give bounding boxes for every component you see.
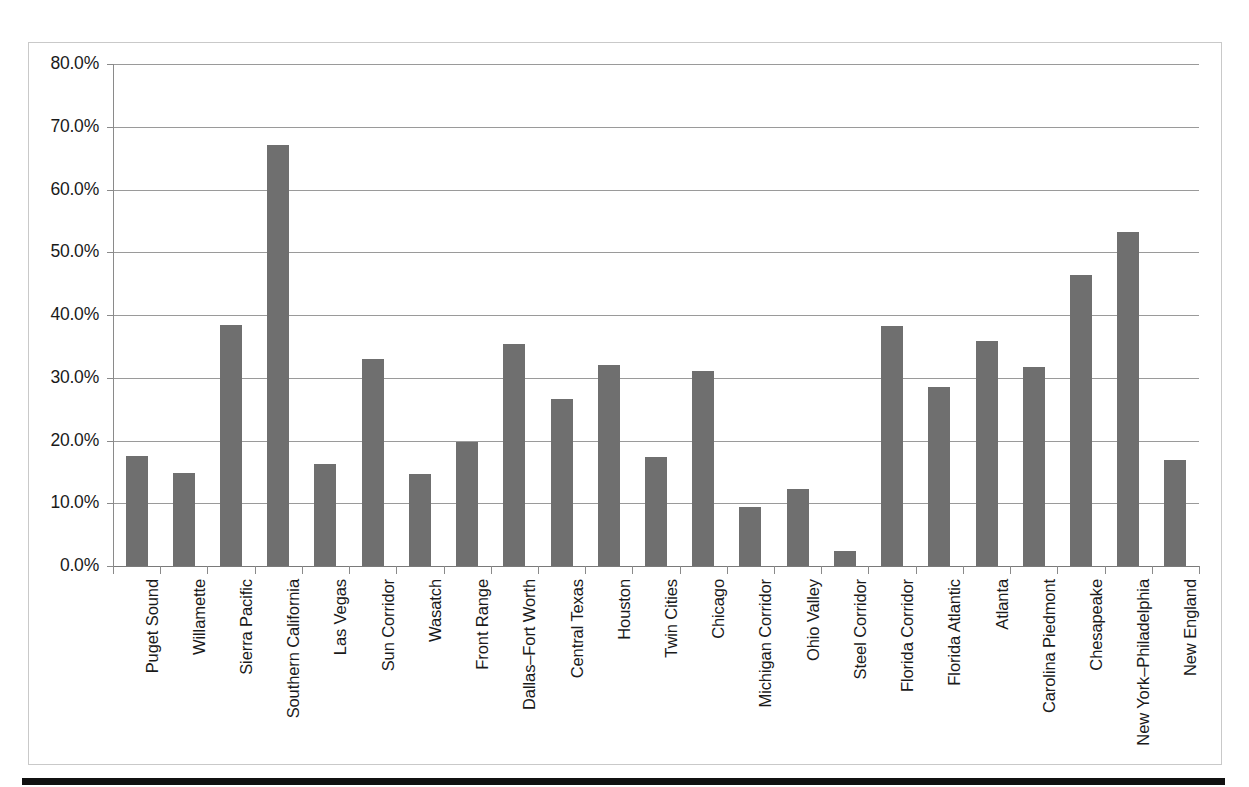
- bar[interactable]: [314, 464, 336, 566]
- x-axis-tick: [727, 566, 728, 574]
- x-axis-tick: [1010, 566, 1011, 574]
- y-axis-tick: [107, 441, 114, 442]
- bottom-rule: [22, 778, 1225, 785]
- x-axis-tick: [113, 566, 114, 574]
- plot-area: [113, 64, 1199, 566]
- x-axis-label: Las Vegas: [332, 579, 349, 655]
- x-axis-tick: [444, 566, 445, 574]
- bar[interactable]: [881, 326, 903, 566]
- x-axis-label: Steel Corridor: [852, 579, 869, 679]
- x-axis-label: Carolina Piedmont: [1041, 579, 1058, 713]
- bar[interactable]: [1023, 367, 1045, 566]
- y-axis-tick: [107, 503, 114, 504]
- x-axis-label: Chesapeake: [1088, 579, 1105, 671]
- x-axis-label: Sun Corridor: [380, 579, 397, 671]
- x-axis-label: Southern California: [285, 579, 302, 718]
- x-axis-label: Twin Cities: [663, 579, 680, 658]
- y-axis-tick: [107, 127, 114, 128]
- x-axis-tick: [916, 566, 917, 574]
- x-axis-label: Houston: [616, 579, 633, 640]
- gridline: [113, 566, 1199, 567]
- y-axis-tick: [107, 252, 114, 253]
- y-axis-label: 20.0%: [29, 430, 99, 451]
- bar[interactable]: [598, 365, 620, 566]
- bar[interactable]: [787, 489, 809, 566]
- x-axis-label: Puget Sound: [144, 579, 161, 673]
- y-axis-label: 10.0%: [29, 492, 99, 513]
- y-axis-tick: [107, 64, 114, 65]
- y-axis-label: 50.0%: [29, 241, 99, 262]
- x-axis-tick: [821, 566, 822, 574]
- bar[interactable]: [409, 474, 431, 566]
- x-axis-tick: [349, 566, 350, 574]
- x-axis-label: Chicago: [710, 579, 727, 639]
- x-axis-label: Michigan Corridor: [757, 579, 774, 708]
- x-axis-label: Front Range: [474, 579, 491, 670]
- bar[interactable]: [173, 473, 195, 566]
- bar[interactable]: [551, 399, 573, 566]
- x-axis-label: Dallas–Fort Worth: [521, 579, 538, 710]
- x-axis-tick: [538, 566, 539, 574]
- y-axis-label: 30.0%: [29, 367, 99, 388]
- bar[interactable]: [126, 456, 148, 566]
- x-axis-label: New England: [1182, 579, 1199, 676]
- x-axis-tick: [396, 566, 397, 574]
- gridline: [113, 64, 1199, 65]
- bar[interactable]: [976, 341, 998, 566]
- bar[interactable]: [220, 325, 242, 566]
- y-axis-label: 0.0%: [29, 555, 99, 576]
- x-axis-label: Central Texas: [569, 579, 586, 678]
- bar[interactable]: [267, 145, 289, 566]
- x-axis-label: Ohio Valley: [805, 579, 822, 661]
- x-axis-tick: [1199, 566, 1200, 574]
- bar[interactable]: [928, 387, 950, 566]
- x-axis-label: Atlanta: [994, 579, 1011, 630]
- x-axis-tick: [774, 566, 775, 574]
- y-axis-tick: [107, 315, 114, 316]
- y-axis-label: 40.0%: [29, 304, 99, 325]
- x-axis-label: New York–Philadelphia: [1135, 579, 1152, 746]
- x-axis-tick: [585, 566, 586, 574]
- x-axis-tick: [1152, 566, 1153, 574]
- gridline: [113, 127, 1199, 128]
- x-axis-tick: [255, 566, 256, 574]
- bar[interactable]: [1164, 460, 1186, 566]
- y-axis-tick: [107, 190, 114, 191]
- figure-frame: 0.0%10.0%20.0%30.0%40.0%50.0%60.0%70.0%8…: [28, 42, 1222, 765]
- x-axis-tick: [963, 566, 964, 574]
- x-axis-tick: [160, 566, 161, 574]
- x-axis-tick: [1057, 566, 1058, 574]
- x-axis-tick: [680, 566, 681, 574]
- y-axis-label: 60.0%: [29, 179, 99, 200]
- bar[interactable]: [1070, 275, 1092, 566]
- bar[interactable]: [456, 442, 478, 566]
- x-axis-tick: [302, 566, 303, 574]
- x-axis-label: Florida Corridor: [899, 579, 916, 692]
- bar[interactable]: [739, 507, 761, 566]
- x-axis-label: Willamette: [191, 579, 208, 655]
- bar[interactable]: [503, 344, 525, 566]
- x-axis-label: Wasatch: [427, 579, 444, 642]
- bar[interactable]: [362, 359, 384, 566]
- y-axis-label: 80.0%: [29, 53, 99, 74]
- x-axis-label: Florida Atlantic: [946, 579, 963, 686]
- bar[interactable]: [1117, 232, 1139, 566]
- bar[interactable]: [834, 551, 856, 566]
- bar[interactable]: [645, 457, 667, 566]
- x-axis-tick: [1105, 566, 1106, 574]
- bar-chart: 0.0%10.0%20.0%30.0%40.0%50.0%60.0%70.0%8…: [29, 43, 1223, 766]
- x-axis-tick: [868, 566, 869, 574]
- bar[interactable]: [692, 371, 714, 566]
- y-axis-label: 70.0%: [29, 116, 99, 137]
- x-axis-tick: [207, 566, 208, 574]
- x-axis-tick: [491, 566, 492, 574]
- x-axis-label: Sierra Pacific: [238, 579, 255, 675]
- x-axis-tick: [632, 566, 633, 574]
- y-axis-tick: [107, 378, 114, 379]
